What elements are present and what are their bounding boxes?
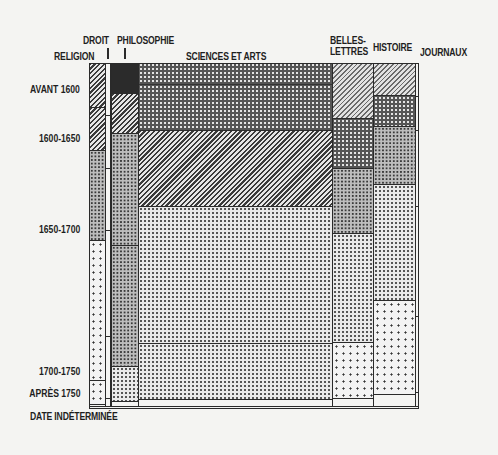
column-label-sciences-et-arts: SCIENCES ET ARTS [186, 51, 266, 62]
droit-apres-1750 [106, 337, 110, 399]
droit-indeterminee [106, 399, 110, 407]
column-journaux [415, 63, 419, 407]
droit-1700-1750 [106, 231, 110, 337]
journaux-1650-1700 [416, 131, 418, 207]
column-label-religion: RELIGION [54, 51, 94, 62]
histoire-indeterminee [374, 395, 419, 407]
sciences-avant-1600 [139, 63, 332, 85]
philosophie-1700-1750 [112, 246, 138, 367]
belles-lettres-1650-1700 [333, 169, 373, 234]
histoire-1650-1700 [374, 127, 419, 185]
philosophie-1600-1650 [112, 94, 138, 134]
religion-avant-1600 [90, 63, 105, 108]
journaux-1700-1750 [416, 207, 418, 317]
droit-1650-1700 [106, 169, 110, 231]
column-sciences-et-arts [138, 63, 332, 407]
column-label-droit: DROIT [83, 35, 109, 46]
column-label-philosophie: PHILOSOPHIE [117, 35, 174, 46]
histoire-1600-1650 [374, 96, 419, 127]
journaux-avant-1600 [416, 63, 418, 97]
droit-avant-1600 [106, 63, 110, 116]
histoire-1700-1750 [374, 185, 419, 301]
sciences-indeterminee [139, 400, 332, 407]
philosophie-1650-1700 [112, 134, 138, 246]
column-histoire [373, 63, 419, 407]
philosophie-pointer [124, 48, 126, 59]
histoire-avant-1600 [374, 63, 419, 96]
row-label-1600-1650: 1600-1650 [39, 133, 80, 144]
journaux-apres-1750 [416, 317, 418, 393]
row-label-1700-1750: 1700-1750 [39, 366, 80, 377]
column-philosophie [111, 63, 138, 407]
column-label-histoire: HISTOIRE [373, 42, 412, 53]
sciences-1600-1650 [139, 85, 332, 131]
belles-lettres-avant-1600 [333, 63, 373, 119]
row-label-avant-1600: AVANT 1600 [30, 84, 80, 95]
philosophie-apres-1750 [112, 367, 138, 402]
belles-lettres-indeterminee [333, 399, 373, 407]
column-religion [89, 63, 105, 407]
column-belles-lettres [332, 63, 373, 407]
philosophie-avant-1600 [112, 63, 138, 94]
column-label-belles-lettres-2: LETTRES [330, 46, 368, 57]
journaux-1600-1650 [416, 97, 418, 131]
row-label-date-indeterminee: DATE INDÉTERMINÉE [30, 411, 117, 422]
religion-apres-1750 [90, 381, 105, 405]
religion-1600-1650 [90, 108, 105, 151]
sciences-apres-1750 [139, 344, 332, 400]
sciences-1700-1750 [139, 207, 332, 344]
row-label-1650-1700: 1650-1700 [39, 224, 80, 235]
belles-lettres-apres-1750 [333, 343, 373, 399]
religion-indeterminee [90, 405, 105, 407]
histoire-apres-1750 [374, 301, 419, 395]
philosophie-indeterminee [112, 402, 138, 407]
journaux-indeterminee [416, 393, 418, 407]
belles-lettres-1700-1750 [333, 234, 373, 343]
droit-1600-1650 [106, 116, 110, 169]
column-label-journaux: JOURNAUX [420, 47, 467, 58]
religion-1700-1750 [90, 241, 105, 381]
belles-lettres-1600-1650 [333, 119, 373, 169]
sciences-1650-1700 [139, 131, 332, 207]
row-label-apres-1750: APRÈS 1750 [29, 388, 80, 399]
droit-pointer [107, 48, 109, 59]
religion-1650-1700 [90, 151, 105, 241]
